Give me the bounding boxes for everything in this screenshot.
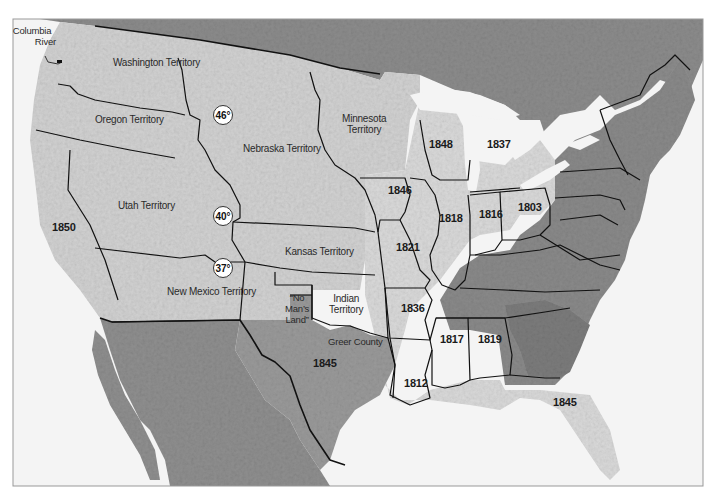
year-ohio: 1803 (518, 202, 542, 213)
year-texas: 1845 (313, 358, 337, 369)
year-louisiana: 1812 (404, 378, 428, 389)
latitude-marker-37: 37° (213, 258, 233, 278)
label-indian-territory: Indian Territory (329, 293, 363, 315)
latitude-marker-46: 46° (213, 105, 233, 125)
no-mans-land-line-1: “No (285, 292, 309, 303)
label-greer-county: Greer County (328, 336, 383, 347)
year-california: 1850 (52, 222, 76, 233)
indian-line-2: Territory (329, 304, 363, 315)
label-kansas-territory: Kansas Territory (285, 246, 354, 257)
indian-line-1: Indian (329, 293, 363, 304)
minnesota-line-2: Territory (342, 124, 386, 135)
label-oregon-territory: Oregon Territory (95, 114, 164, 125)
year-mississippi: 1817 (440, 334, 464, 345)
no-mans-land-line-3: Land” (285, 314, 309, 325)
year-missouri: 1821 (396, 242, 420, 253)
columbia-river-mouth-marker (57, 60, 62, 63)
callout-line-1: Columbia (8, 25, 56, 36)
year-illinois: 1818 (439, 213, 463, 224)
year-indiana: 1816 (479, 209, 503, 220)
columbia-river-label: Columbia River (8, 25, 56, 47)
year-alabama: 1819 (478, 334, 502, 345)
label-nebraska-territory: Nebraska Territory (243, 143, 321, 154)
latitude-marker-40: 40° (213, 206, 233, 226)
year-michigan: 1837 (487, 139, 511, 150)
year-arkansas: 1836 (401, 303, 425, 314)
label-no-mans-land: “No Man’s Land” (285, 292, 309, 325)
label-utah-territory: Utah Territory (118, 200, 175, 211)
label-minnesota-territory: Minnesota Territory (342, 113, 386, 135)
year-iowa: 1846 (388, 185, 412, 196)
label-washington-territory: Washington Territory (113, 57, 200, 68)
year-wisconsin: 1848 (429, 139, 453, 150)
minnesota-line-1: Minnesota (342, 113, 386, 124)
year-florida: 1845 (553, 397, 577, 408)
territorial-map (0, 0, 718, 500)
callout-line-2: River (8, 36, 56, 47)
label-new-mexico-territory: New Mexico Territory (167, 286, 256, 297)
no-mans-land-line-2: Man’s (285, 303, 309, 314)
